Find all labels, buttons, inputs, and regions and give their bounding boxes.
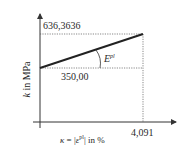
y-axis-var: k bbox=[21, 93, 32, 97]
slope-label: Epl bbox=[104, 51, 115, 64]
hardening-line bbox=[40, 34, 143, 68]
x-axis-label: κ = |εpl| in % bbox=[60, 132, 105, 145]
slope-label-sup: pl bbox=[110, 53, 115, 59]
x-end-value: 4,091 bbox=[131, 128, 154, 138]
slope-angle-arc bbox=[96, 50, 101, 68]
y-top-value: 636,3636 bbox=[43, 21, 81, 31]
y-axis-label: k in MPa bbox=[21, 58, 32, 102]
x-axis-eq: = | bbox=[64, 135, 75, 145]
y-mid-value: 350,00 bbox=[61, 72, 89, 82]
y-axis-unit: in MPa bbox=[21, 61, 32, 93]
x-axis-tail: | in % bbox=[84, 135, 105, 145]
